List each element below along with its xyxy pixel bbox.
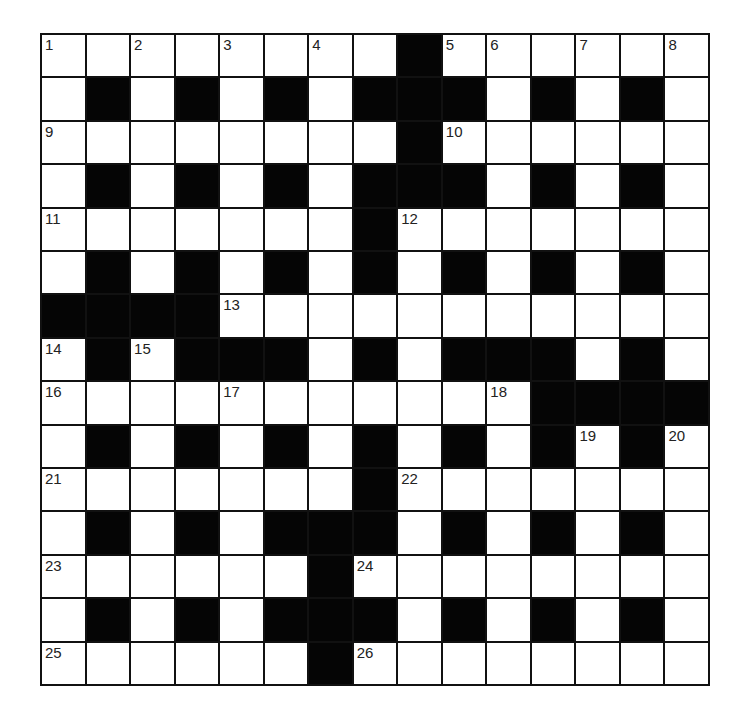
letter-cell[interactable] <box>532 209 575 250</box>
letter-cell[interactable] <box>443 295 486 336</box>
letter-cell[interactable] <box>487 599 530 640</box>
letter-cell[interactable] <box>220 469 263 510</box>
letter-cell[interactable]: 18 <box>487 382 530 423</box>
letter-cell[interactable] <box>131 78 174 119</box>
letter-cell[interactable]: 21 <box>42 469 85 510</box>
letter-cell[interactable] <box>443 382 486 423</box>
letter-cell[interactable] <box>220 599 263 640</box>
letter-cell[interactable]: 9 <box>42 122 85 163</box>
letter-cell[interactable] <box>220 122 263 163</box>
letter-cell[interactable] <box>309 469 352 510</box>
letter-cell[interactable] <box>487 556 530 597</box>
letter-cell[interactable] <box>532 469 575 510</box>
letter-cell[interactable] <box>576 339 619 380</box>
letter-cell[interactable] <box>621 209 664 250</box>
letter-cell[interactable] <box>131 426 174 467</box>
letter-cell[interactable] <box>532 556 575 597</box>
letter-cell[interactable]: 19 <box>576 426 619 467</box>
letter-cell[interactable] <box>131 122 174 163</box>
letter-cell[interactable] <box>220 512 263 553</box>
letter-cell[interactable] <box>487 122 530 163</box>
letter-cell[interactable] <box>576 643 619 684</box>
letter-cell[interactable] <box>576 122 619 163</box>
letter-cell[interactable] <box>398 512 441 553</box>
letter-cell[interactable] <box>309 78 352 119</box>
letter-cell[interactable] <box>176 35 219 76</box>
letter-cell[interactable] <box>576 165 619 206</box>
letter-cell[interactable] <box>487 512 530 553</box>
letter-cell[interactable]: 23 <box>42 556 85 597</box>
letter-cell[interactable]: 7 <box>576 35 619 76</box>
letter-cell[interactable]: 3 <box>220 35 263 76</box>
letter-cell[interactable]: 5 <box>443 35 486 76</box>
letter-cell[interactable] <box>220 252 263 293</box>
letter-cell[interactable] <box>265 35 308 76</box>
letter-cell[interactable] <box>309 165 352 206</box>
letter-cell[interactable] <box>176 122 219 163</box>
letter-cell[interactable] <box>576 556 619 597</box>
letter-cell[interactable] <box>665 556 708 597</box>
letter-cell[interactable]: 2 <box>131 35 174 76</box>
letter-cell[interactable] <box>665 469 708 510</box>
letter-cell[interactable] <box>576 209 619 250</box>
letter-cell[interactable] <box>131 512 174 553</box>
letter-cell[interactable] <box>265 382 308 423</box>
letter-cell[interactable] <box>665 122 708 163</box>
letter-cell[interactable] <box>576 469 619 510</box>
letter-cell[interactable]: 15 <box>131 339 174 380</box>
letter-cell[interactable] <box>42 426 85 467</box>
letter-cell[interactable] <box>621 295 664 336</box>
letter-cell[interactable] <box>42 599 85 640</box>
letter-cell[interactable]: 13 <box>220 295 263 336</box>
letter-cell[interactable] <box>131 556 174 597</box>
letter-cell[interactable] <box>176 643 219 684</box>
letter-cell[interactable] <box>131 209 174 250</box>
letter-cell[interactable] <box>665 339 708 380</box>
letter-cell[interactable] <box>220 556 263 597</box>
letter-cell[interactable] <box>621 556 664 597</box>
letter-cell[interactable]: 25 <box>42 643 85 684</box>
letter-cell[interactable]: 24 <box>354 556 397 597</box>
letter-cell[interactable] <box>309 252 352 293</box>
letter-cell[interactable] <box>398 339 441 380</box>
letter-cell[interactable] <box>665 643 708 684</box>
letter-cell[interactable] <box>621 469 664 510</box>
letter-cell[interactable] <box>443 643 486 684</box>
letter-cell[interactable] <box>265 556 308 597</box>
letter-cell[interactable] <box>265 469 308 510</box>
letter-cell[interactable]: 26 <box>354 643 397 684</box>
letter-cell[interactable] <box>398 295 441 336</box>
letter-cell[interactable] <box>87 122 130 163</box>
letter-cell[interactable]: 8 <box>665 35 708 76</box>
letter-cell[interactable] <box>265 122 308 163</box>
letter-cell[interactable] <box>42 512 85 553</box>
letter-cell[interactable] <box>576 78 619 119</box>
letter-cell[interactable] <box>220 643 263 684</box>
letter-cell[interactable] <box>487 469 530 510</box>
letter-cell[interactable]: 6 <box>487 35 530 76</box>
letter-cell[interactable] <box>354 295 397 336</box>
letter-cell[interactable] <box>532 295 575 336</box>
letter-cell[interactable] <box>220 165 263 206</box>
letter-cell[interactable] <box>532 122 575 163</box>
letter-cell[interactable] <box>309 426 352 467</box>
letter-cell[interactable]: 12 <box>398 209 441 250</box>
letter-cell[interactable] <box>42 165 85 206</box>
letter-cell[interactable] <box>176 469 219 510</box>
letter-cell[interactable] <box>487 426 530 467</box>
letter-cell[interactable] <box>309 339 352 380</box>
letter-cell[interactable] <box>87 556 130 597</box>
letter-cell[interactable] <box>487 643 530 684</box>
letter-cell[interactable] <box>487 78 530 119</box>
letter-cell[interactable] <box>576 295 619 336</box>
letter-cell[interactable] <box>398 643 441 684</box>
letter-cell[interactable]: 16 <box>42 382 85 423</box>
letter-cell[interactable] <box>220 78 263 119</box>
letter-cell[interactable] <box>87 35 130 76</box>
letter-cell[interactable] <box>131 382 174 423</box>
letter-cell[interactable] <box>131 599 174 640</box>
letter-cell[interactable]: 20 <box>665 426 708 467</box>
letter-cell[interactable]: 22 <box>398 469 441 510</box>
letter-cell[interactable] <box>621 35 664 76</box>
letter-cell[interactable] <box>398 426 441 467</box>
